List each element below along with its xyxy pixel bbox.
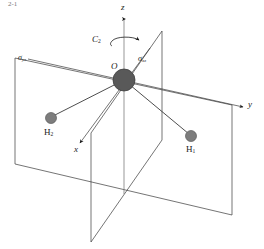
operation-label-c2: C2 [92, 35, 101, 45]
atom-H2 [46, 113, 57, 124]
plane-label-sigma-xz: σxz [138, 55, 146, 64]
axis-label-z: z [121, 3, 125, 12]
atom-label-H1: H1 [186, 145, 195, 155]
axis-y [28, 59, 243, 107]
c2-rotation-arrow [111, 37, 140, 46]
atom-H1 [186, 131, 197, 142]
symmetry-diagram-svg [0, 0, 264, 249]
figure-canvas: 2-1 [0, 0, 264, 249]
axis-label-x: x [74, 145, 78, 154]
plane-sigma-xz [91, 31, 162, 242]
plane-label-sigma-yz: σyz [18, 54, 26, 63]
atom-label-O: O [111, 62, 118, 71]
atom-O [113, 69, 135, 91]
atom-label-H2: H2 [44, 128, 53, 138]
axis-label-y: y [248, 100, 252, 109]
